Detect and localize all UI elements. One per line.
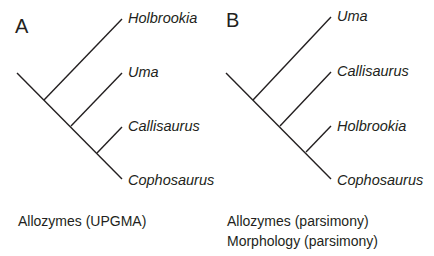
- panel-b-taxon-4: Cophosaurus: [337, 172, 423, 188]
- panel-a-caption: Allozymes (UPGMA): [18, 211, 146, 231]
- panel-b-tree: B Uma Callisaurus Holbrookia Cophosaurus: [226, 8, 423, 188]
- panel-a-branch-1: [44, 19, 122, 100]
- panel-a-taxon-3: Callisaurus: [128, 118, 200, 134]
- panel-a-tree: A Holbrookia Uma Callisaurus Cophosaurus: [15, 10, 214, 188]
- panel-a-letter: A: [15, 15, 29, 37]
- panel-b-branch-1: [253, 17, 331, 100]
- panel-a-branch-2: [71, 73, 122, 126]
- panel-a-taxon-2: Uma: [128, 64, 159, 80]
- panel-a-method-1: Allozymes (UPGMA): [18, 211, 146, 231]
- panel-b-taxon-1: Uma: [337, 8, 368, 24]
- panel-b-taxon-3: Holbrookia: [337, 118, 406, 134]
- panel-a-taxon-1: Holbrookia: [128, 10, 197, 26]
- panel-a-taxon-4: Cophosaurus: [128, 172, 214, 188]
- panel-b-method-1: Allozymes (parsimony): [227, 211, 378, 231]
- panel-b-letter: B: [226, 9, 239, 31]
- panel-b-taxon-2: Callisaurus: [337, 63, 409, 79]
- panel-b-branch-2: [280, 72, 331, 126]
- panel-a-branch-3: [97, 127, 122, 153]
- panel-b-branch-3: [306, 126, 331, 152]
- panel-b-caption: Allozymes (parsimony) Morphology (parsim…: [227, 211, 378, 251]
- panel-b-method-2: Morphology (parsimony): [227, 231, 378, 251]
